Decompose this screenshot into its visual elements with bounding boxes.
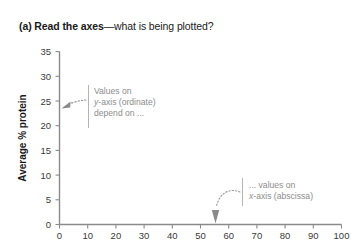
y-axis-tick-labels: 0 5 10 15 20 25 30 35 [40, 46, 51, 230]
y-tick-label: 10 [40, 170, 51, 181]
x-axis-callout: ... values on x-axis (abscissa) [212, 178, 313, 224]
x-callout-line1: ... values on [249, 180, 296, 190]
y-tick-label: 5 [46, 194, 51, 205]
x-tick-label: 10 [82, 230, 93, 241]
x-callout-leader-line [217, 191, 241, 206]
x-tick-label: 40 [167, 230, 178, 241]
y-tick-label: 35 [40, 46, 51, 57]
x-tick-label: 60 [223, 230, 234, 241]
y-callout-line2: y-axis (ordinate) [93, 97, 156, 107]
y-tick-label: 0 [46, 219, 51, 230]
x-tick-label: 20 [111, 230, 122, 241]
x-callout-arrowhead [212, 210, 219, 224]
x-tick-label: 50 [195, 230, 206, 241]
y-callout-leader-line [69, 100, 87, 105]
y-axis-title: Average % protein [17, 94, 28, 181]
x-axis-tick-labels: 0 10 20 30 40 50 60 70 80 90 100 [57, 230, 350, 241]
x-tick-label: 70 [252, 230, 263, 241]
x-tick-label: 90 [308, 230, 319, 241]
y-tick-label: 15 [40, 145, 51, 156]
y-callout-line3: depend on ... [94, 108, 144, 118]
y-axis-callout: Values on y-axis (ordinate) depend on ..… [62, 85, 156, 128]
plot-area: 0 5 10 15 20 25 30 35 Average % protein [0, 0, 357, 242]
y-tick-label: 30 [40, 71, 51, 82]
x-tick-label: 30 [139, 230, 150, 241]
x-tick-label: 0 [57, 230, 62, 241]
x-callout-line2: x-axis (abscissa) [248, 191, 313, 201]
x-callout-axis-rest: -axis (abscissa) [253, 191, 313, 201]
y-callout-axis-rest: -axis (ordinate) [98, 97, 155, 107]
x-tick-label: 100 [334, 230, 350, 241]
x-tick-label: 80 [280, 230, 291, 241]
y-tick-label: 20 [40, 120, 51, 131]
y-callout-arrowhead [62, 102, 71, 109]
figure-panel: (a) Read the axes—what is being plotted?… [0, 0, 357, 242]
y-callout-line1: Values on [94, 86, 132, 96]
y-tick-label: 25 [40, 96, 51, 107]
